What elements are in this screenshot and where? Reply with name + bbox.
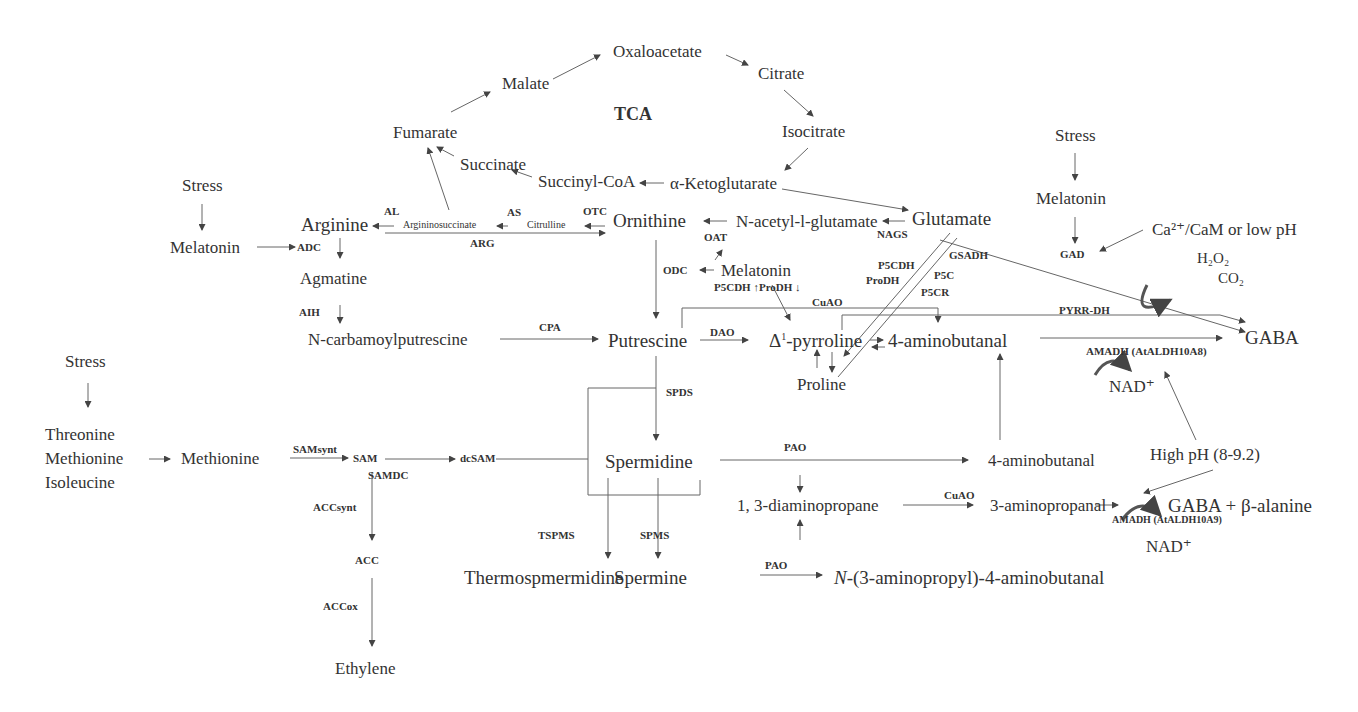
node-oxaloacetate: Oxaloacetate (613, 43, 702, 60)
enzyme-pao-2: PAO (765, 560, 787, 571)
node-citrate: Citrate (758, 65, 804, 82)
enzyme-amadh-aldh10a8: AMADH (AtALDH10A8) (1086, 346, 1207, 357)
node-4-aminobutanal-2: 4-aminobutanal (988, 452, 1095, 469)
enzyme-pyrr-dh: PYRR-DH (1059, 305, 1110, 316)
polyamine-gaba-pathway-diagram: TCA Oxaloacetate Citrate Isocitrate α-Ke… (0, 0, 1358, 712)
node-alpha-ketoglutarate: α-Ketoglutarate (670, 175, 777, 192)
enzyme-nags: NAGS (877, 229, 908, 240)
enzyme-cpa: CPA (539, 322, 561, 333)
node-delta1-pyrroline: Δ1-pyrroline (769, 331, 862, 350)
node-4-aminobutanal-1: 4-aminobutanal (888, 331, 1007, 350)
enzyme-gad: GAD (1060, 249, 1084, 260)
node-stress-3: Stress (1055, 127, 1096, 144)
node-co2: CO₂ (1218, 271, 1244, 286)
enzyme-adc: ADC (297, 242, 321, 253)
node-malate: Malate (502, 75, 549, 92)
node-glutamate: Glutamate (912, 209, 991, 228)
enzyme-p5cdh: P5CDH (878, 260, 915, 271)
node-nad-1: NAD⁺ (1109, 378, 1155, 395)
node-ca-cam-low-ph: Ca²⁺/CaM or low pH (1152, 221, 1297, 238)
node-thermospermidine: Thermospmermidine (464, 568, 623, 587)
enzyme-otc: OTC (583, 206, 607, 217)
enzyme-pao-1: PAO (784, 442, 806, 453)
node-acc: ACC (355, 555, 379, 566)
node-agmatine: Agmatine (300, 270, 367, 287)
node-stress-1: Stress (182, 177, 223, 194)
node-melatonin-1: Melatonin (170, 239, 240, 256)
node-stress-2: Stress (65, 353, 106, 370)
node-citrulline: Citrulline (527, 220, 565, 230)
tca-title: TCA (614, 104, 652, 125)
enzyme-spms: SPMS (640, 530, 669, 541)
node-h2o2: H₂O₂ (1197, 251, 1229, 266)
node-succinyl-coa: Succinyl-CoA (538, 173, 635, 190)
node-threonine: Threonine (45, 426, 115, 443)
node-gaba-beta-alanine: GABA + β-alanine (1168, 496, 1312, 515)
node-spermidine: Spermidine (605, 452, 693, 471)
node-n-carbamoylputrescine: N-carbamoylputrescine (308, 331, 468, 348)
node-melatonin-3: Melatonin (1036, 190, 1106, 207)
enzyme-samdc: SAMDC (368, 470, 408, 481)
node-ornithine: Ornithine (613, 211, 686, 230)
node-arginine: Arginine (301, 215, 368, 234)
node-ethylene: Ethylene (335, 660, 395, 677)
enzyme-accsynt: ACCsynt (313, 502, 356, 513)
enzyme-spds: SPDS (666, 387, 693, 398)
node-n-3-aminopropyl-4-aminobutanal: N-(3-aminopropyl)-4-aminobutanal (834, 568, 1104, 587)
node-dcsam: dcSAM (460, 453, 495, 464)
node-proline: Proline (797, 376, 846, 393)
enzyme-p5cdh-prodh: P5CDH ↑ProDH ↓ (714, 282, 801, 293)
enzyme-p5cr: P5CR (921, 287, 949, 298)
enzyme-oat: OAT (704, 232, 727, 243)
enzyme-odc: ODC (663, 265, 687, 276)
enzyme-samsynt: SAMsynt (293, 444, 337, 455)
enzyme-dao: DAO (710, 327, 734, 338)
enzyme-aih: AIH (299, 307, 320, 318)
enzyme-as: AS (507, 207, 521, 218)
enzyme-p5c: P5C (934, 270, 954, 281)
node-methionine-2: Methionine (181, 450, 259, 467)
enzyme-gsadh: GSADH (949, 250, 988, 261)
enzyme-amadh-aldh10a9: AMADH (AtALDH10A9) (1112, 515, 1222, 525)
node-high-ph: High pH (8-9.2) (1150, 446, 1260, 463)
node-fumarate: Fumarate (393, 124, 457, 141)
node-3-aminopropanal: 3-aminopropanal (990, 497, 1106, 514)
node-nad-2: NAD⁺ (1146, 538, 1192, 555)
enzyme-tspms: TSPMS (538, 530, 575, 541)
node-sam: SAM (353, 453, 377, 464)
enzyme-cuao-1: CuAO (812, 297, 843, 308)
node-isocitrate: Isocitrate (782, 123, 845, 140)
node-methionine-1: Methionine (45, 450, 123, 467)
enzyme-cuao-2: CuAO (944, 490, 975, 501)
node-1-3-diaminopropane: 1, 3-diaminopropane (737, 497, 879, 514)
enzyme-prodh: ProDH (866, 275, 899, 286)
node-n-acetyl-glutamate: N-acetyl-l-glutamate (736, 213, 878, 230)
node-putrescine: Putrescine (608, 331, 687, 350)
node-spermine: Spermine (614, 568, 687, 587)
enzyme-arg: ARG (470, 238, 494, 249)
node-succinate: Succinate (460, 156, 526, 173)
enzyme-accox: ACCox (323, 601, 358, 612)
node-isoleucine: Isoleucine (45, 474, 115, 491)
enzyme-al: AL (384, 206, 399, 217)
node-argininosuccinate: Argininosuccinate (403, 220, 476, 230)
node-melatonin-2: Melatonin (721, 262, 791, 279)
node-gaba: GABA (1245, 328, 1299, 347)
